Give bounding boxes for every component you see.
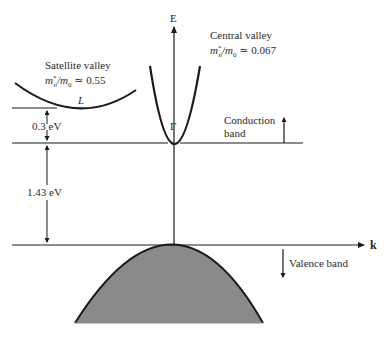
conduction-band-label-line1: Conduction (224, 114, 276, 126)
L-point-label: L (77, 94, 84, 106)
band-diagram: k E Γ L 0.3 eV 1.43 eV Satellite valley … (0, 0, 389, 340)
mass-value: ≃ 0.067 (236, 44, 276, 56)
energy-axis-label: E (170, 12, 177, 24)
valence-band-label: Valence band (289, 257, 348, 269)
central-valley-mass: m*n/m0 ≃ 0.067 (210, 44, 276, 59)
central-valley-curve (150, 66, 200, 144)
mass-divider: /m (56, 74, 68, 86)
k-axis-label: k (370, 238, 377, 252)
band-gap-label: 1.43 eV (27, 186, 62, 198)
mass-symbol: m (45, 74, 53, 86)
satellite-offset-label: 0.3 eV (32, 120, 61, 132)
satellite-valley-title: Satellite valley (45, 59, 111, 71)
gamma-point-label: Γ (170, 120, 176, 132)
mass-value: ≃ 0.55 (71, 74, 105, 86)
conduction-band-label-line2: band (224, 127, 246, 139)
mass-divider: /m (221, 44, 233, 56)
mass-symbol: m (210, 44, 218, 56)
central-valley-title: Central valley (210, 29, 273, 41)
satellite-valley-mass: m*n/m0 ≃ 0.55 (45, 74, 106, 89)
satellite-valley-curve (15, 83, 136, 108)
